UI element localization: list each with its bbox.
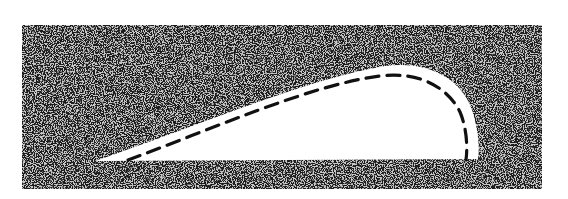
airfoil-diagram <box>0 0 568 199</box>
